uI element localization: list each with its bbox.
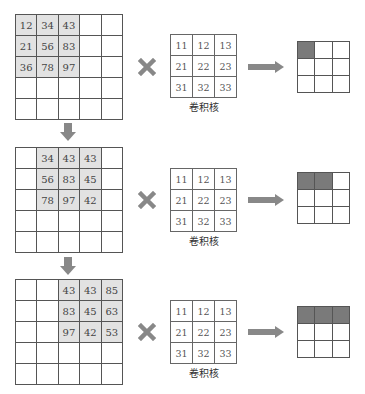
input-cell — [102, 57, 123, 78]
output-cell — [333, 324, 350, 341]
output-cell — [298, 341, 315, 358]
output-cell — [298, 207, 315, 224]
input-cell: 97 — [59, 322, 80, 343]
kernel-cell: 12 — [193, 35, 215, 56]
input-cell — [80, 211, 101, 232]
input-cell — [80, 15, 101, 36]
input-cell: 42 — [80, 190, 101, 211]
output-cell — [315, 324, 332, 341]
right-arrow-icon — [248, 61, 284, 73]
output-cell-filled — [298, 307, 315, 324]
kernel-cell: 11 — [171, 301, 193, 322]
input-cell — [102, 148, 123, 169]
input-cell — [59, 78, 80, 99]
input-cell — [59, 343, 80, 364]
input-cell — [37, 78, 58, 99]
input-cell: 42 — [80, 322, 101, 343]
input-cell — [16, 190, 37, 211]
kernel-cell: 13 — [215, 301, 237, 322]
output-cell — [333, 59, 350, 76]
input-cell: 83 — [59, 169, 80, 190]
output-cell — [333, 173, 350, 190]
kernel-cell: 31 — [171, 211, 193, 232]
kernel-cell: 22 — [193, 322, 215, 343]
kernel-cell: 23 — [215, 322, 237, 343]
output-cell — [315, 42, 332, 59]
input-cell: 21 — [16, 36, 37, 57]
output-cell — [298, 324, 315, 341]
input-cell: 45 — [80, 169, 101, 190]
kernel-cell: 31 — [171, 77, 193, 98]
input-cell: 56 — [37, 169, 58, 190]
output-cell — [315, 190, 332, 207]
input-cell — [59, 364, 80, 385]
output-cell — [315, 59, 332, 76]
input-cell — [37, 232, 58, 253]
input-cell: 97 — [59, 190, 80, 211]
output-cell — [315, 207, 332, 224]
input-cell — [16, 280, 37, 301]
kernel-cell: 33 — [215, 211, 237, 232]
output-cell-filled — [315, 173, 332, 190]
input-cell — [102, 364, 123, 385]
input-cell — [16, 301, 37, 322]
input-cell — [16, 322, 37, 343]
kernel-cell: 23 — [215, 56, 237, 77]
kernel-cell: 33 — [215, 77, 237, 98]
input-cell: 36 — [16, 57, 37, 78]
multiply-icon — [138, 323, 156, 341]
input-matrix-step-3: 434385834563974253 — [15, 279, 123, 385]
input-cell: 56 — [37, 36, 58, 57]
multiply-icon — [138, 191, 156, 209]
input-cell: 97 — [59, 57, 80, 78]
input-cell — [16, 148, 37, 169]
input-cell: 34 — [37, 148, 58, 169]
output-cell — [298, 76, 315, 93]
kernel-label: 卷积核 — [170, 233, 238, 248]
input-cell: 85 — [102, 280, 123, 301]
input-cell — [102, 232, 123, 253]
input-cell: 43 — [59, 280, 80, 301]
input-cell — [80, 343, 101, 364]
input-cell — [59, 211, 80, 232]
kernel-cell: 32 — [193, 343, 215, 364]
kernel-cell: 11 — [171, 169, 193, 190]
input-cell — [80, 364, 101, 385]
output-matrix-step-3 — [297, 306, 350, 358]
kernel-matrix-step-2: 111213212223313233 — [170, 168, 237, 232]
kernel-matrix-step-3: 111213212223313233 — [170, 300, 237, 364]
input-cell: 78 — [37, 190, 58, 211]
output-cell — [333, 76, 350, 93]
right-arrow-icon — [248, 194, 284, 206]
kernel-cell: 22 — [193, 190, 215, 211]
kernel-label: 卷积核 — [170, 99, 238, 114]
input-cell — [80, 57, 101, 78]
input-cell — [16, 343, 37, 364]
output-cell — [315, 76, 332, 93]
output-cell — [333, 42, 350, 59]
input-cell — [37, 280, 58, 301]
kernel-cell: 22 — [193, 56, 215, 77]
right-arrow-icon — [248, 326, 284, 338]
input-cell — [102, 99, 123, 120]
kernel-cell: 31 — [171, 343, 193, 364]
input-cell: 43 — [80, 280, 101, 301]
input-cell — [37, 322, 58, 343]
kernel-cell: 21 — [171, 56, 193, 77]
output-cell — [315, 341, 332, 358]
multiply-icon — [138, 58, 156, 76]
output-cell-filled — [315, 307, 332, 324]
input-cell — [59, 99, 80, 120]
input-matrix-step-2: 344343568345789742 — [15, 147, 123, 253]
input-cell — [37, 211, 58, 232]
input-cell — [102, 169, 123, 190]
input-cell — [102, 343, 123, 364]
down-arrow-icon — [60, 123, 76, 141]
output-cell — [333, 190, 350, 207]
down-arrow-icon — [60, 257, 76, 275]
kernel-cell: 12 — [193, 301, 215, 322]
kernel-cell: 32 — [193, 77, 215, 98]
kernel-label: 卷积核 — [170, 365, 238, 380]
output-cell — [333, 207, 350, 224]
input-cell — [80, 232, 101, 253]
